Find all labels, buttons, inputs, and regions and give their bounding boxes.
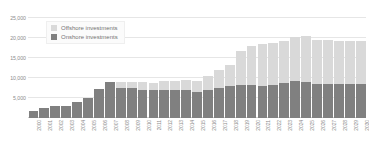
bar-column[interactable] <box>312 8 322 118</box>
bar-segment-offshore[interactable] <box>323 40 333 84</box>
bar-segment-onshore[interactable] <box>83 98 93 118</box>
bar-column[interactable] <box>323 8 333 118</box>
bar-column[interactable] <box>149 8 159 118</box>
bar-segment-onshore[interactable] <box>127 88 137 118</box>
bar-segment-onshore[interactable] <box>61 106 71 118</box>
bar-segment-onshore[interactable] <box>236 85 246 118</box>
bar-segment-onshore[interactable] <box>94 89 104 118</box>
bar-segment-onshore[interactable] <box>345 84 355 118</box>
bar-segment-offshore[interactable] <box>203 76 213 90</box>
bar-column[interactable] <box>127 8 137 118</box>
bar-column[interactable] <box>356 8 366 118</box>
x-tick: 2015 <box>192 119 203 150</box>
bar-segment-offshore[interactable] <box>268 43 278 85</box>
bar-segment-onshore[interactable] <box>356 84 366 118</box>
bar-column[interactable] <box>159 8 169 118</box>
x-tick: 2022 <box>268 119 279 150</box>
bar-segment-onshore[interactable] <box>301 82 311 118</box>
bar-column[interactable] <box>138 8 148 118</box>
legend-item[interactable]: Offshore investments <box>51 25 118 31</box>
bar-segment-offshore[interactable] <box>345 41 355 84</box>
bar-segment-offshore[interactable] <box>149 83 159 90</box>
bar-segment-onshore[interactable] <box>181 90 191 118</box>
bar-segment-offshore[interactable] <box>159 81 169 89</box>
bar-column[interactable] <box>345 8 355 118</box>
bar-column[interactable] <box>279 8 289 118</box>
bar-column[interactable] <box>290 8 300 118</box>
bar-column[interactable] <box>247 8 257 118</box>
legend-item[interactable]: Onshore investments <box>51 34 118 40</box>
bar-segment-onshore[interactable] <box>39 108 49 118</box>
bar-segment-onshore[interactable] <box>247 85 257 118</box>
bar-segment-onshore[interactable] <box>116 88 126 118</box>
legend-label: Onshore investments <box>61 34 118 40</box>
bar-segment-onshore[interactable] <box>312 84 322 118</box>
x-tick: 2004 <box>72 119 83 150</box>
y-axis: 5,00010,00015,00020,00025,000 <box>0 8 26 118</box>
x-tick: 2012 <box>159 119 170 150</box>
bar-segment-onshore[interactable] <box>279 83 289 118</box>
x-tick: 2030 <box>355 119 366 150</box>
bar-column[interactable] <box>236 8 246 118</box>
bar-segment-onshore[interactable] <box>290 81 300 118</box>
x-tick: 2001 <box>39 119 50 150</box>
bar-segment-offshore[interactable] <box>301 36 311 82</box>
bar-segment-onshore[interactable] <box>323 84 333 118</box>
bar-segment-onshore[interactable] <box>203 90 213 118</box>
bar-segment-offshore[interactable] <box>170 81 180 90</box>
x-tick: 2017 <box>213 119 224 150</box>
bar-segment-onshore[interactable] <box>149 90 159 118</box>
bar-segment-onshore[interactable] <box>138 90 148 118</box>
bar-column[interactable] <box>258 8 268 118</box>
bar-column[interactable] <box>181 8 191 118</box>
bar-segment-offshore[interactable] <box>334 41 344 84</box>
bar-column[interactable] <box>192 8 202 118</box>
x-tick: 2021 <box>257 119 268 150</box>
bar-segment-onshore[interactable] <box>105 82 115 118</box>
bar-segment-offshore[interactable] <box>138 82 148 90</box>
bar-segment-offshore[interactable] <box>290 37 300 81</box>
bar-segment-offshore[interactable] <box>258 44 268 86</box>
x-tick: 2008 <box>115 119 126 150</box>
x-tick: 2010 <box>137 119 148 150</box>
bar-segment-onshore[interactable] <box>258 86 268 118</box>
bar-segment-onshore[interactable] <box>268 85 278 118</box>
bar-segment-onshore[interactable] <box>72 102 82 118</box>
bar-segment-onshore[interactable] <box>159 90 169 118</box>
bar-segment-offshore[interactable] <box>192 81 202 91</box>
x-tick: 2016 <box>203 119 214 150</box>
bar-column[interactable] <box>29 8 39 118</box>
bar-column[interactable] <box>203 8 213 118</box>
bar-column[interactable] <box>225 8 235 118</box>
bar-segment-offshore[interactable] <box>247 46 257 85</box>
bar-segment-offshore[interactable] <box>214 70 224 88</box>
bar-column[interactable] <box>334 8 344 118</box>
x-tick-label: 2030 <box>363 120 369 131</box>
x-tick: 2020 <box>246 119 257 150</box>
x-tick: 2013 <box>170 119 181 150</box>
x-tick: 2026 <box>312 119 323 150</box>
bar-segment-onshore[interactable] <box>214 88 224 118</box>
bar-column[interactable] <box>268 8 278 118</box>
bar-column[interactable] <box>214 8 224 118</box>
bar-segment-onshore[interactable] <box>334 84 344 118</box>
legend-label: Offshore investments <box>61 25 118 31</box>
bar-segment-offshore[interactable] <box>181 80 191 89</box>
bar-segment-onshore[interactable] <box>29 111 39 118</box>
x-tick: 2014 <box>181 119 192 150</box>
x-tick: 2003 <box>61 119 72 150</box>
bar-segment-onshore[interactable] <box>170 90 180 118</box>
bar-segment-offshore[interactable] <box>312 40 322 84</box>
bar-segment-onshore[interactable] <box>192 92 202 118</box>
bar-segment-onshore[interactable] <box>225 86 235 118</box>
bar-segment-offshore[interactable] <box>225 65 235 86</box>
bar-column[interactable] <box>170 8 180 118</box>
bar-segment-offshore[interactable] <box>236 51 246 85</box>
bar-segment-offshore[interactable] <box>279 41 289 83</box>
bar-segment-onshore[interactable] <box>50 106 60 118</box>
chart-title <box>0 0 368 5</box>
bar-column[interactable] <box>301 8 311 118</box>
bar-segment-offshore[interactable] <box>356 41 366 84</box>
chart-legend: Offshore investmentsOnshore investments <box>46 21 125 44</box>
